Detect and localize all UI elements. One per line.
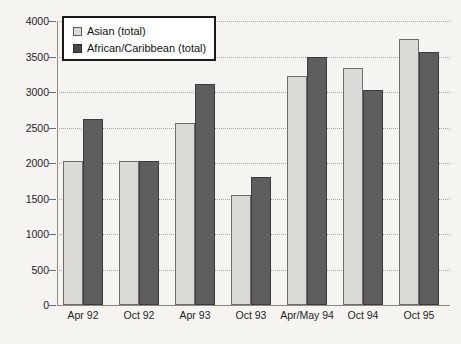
legend-swatch-icon-african-caribbean xyxy=(73,44,82,53)
bar-asian xyxy=(175,123,195,305)
chart-legend: Asian (total) African/Caribbean (total) xyxy=(62,16,216,61)
x-axis-tick-label: Oct 95 xyxy=(379,309,459,321)
bar-asian xyxy=(231,195,251,305)
y-axis-tick-label: 500 xyxy=(3,265,49,276)
y-axis-tick-mark xyxy=(49,128,56,129)
y-axis-tick-label: 1000 xyxy=(3,229,49,240)
bar-asian xyxy=(343,68,363,305)
y-axis-tick-mark xyxy=(49,163,56,164)
y-axis-tick-mark xyxy=(49,234,56,235)
y-axis-tick-mark xyxy=(49,92,56,93)
y-axis-tick-label: 2000 xyxy=(3,158,49,169)
y-axis-tick-label: 4000 xyxy=(3,16,49,27)
bar-african-caribbean xyxy=(419,52,439,305)
y-axis-tick-label: 3500 xyxy=(3,52,49,63)
y-axis-tick-mark xyxy=(49,305,56,306)
legend-label-asian: Asian (total) xyxy=(87,26,146,37)
bar-asian xyxy=(287,76,307,305)
bar-african-caribbean xyxy=(363,90,383,305)
legend-swatch-icon-asian xyxy=(73,27,82,36)
legend-label-african-caribbean: African/Caribbean (total) xyxy=(87,43,206,54)
bar-african-caribbean xyxy=(251,177,271,305)
y-axis-tick-mark xyxy=(49,199,56,200)
bar-asian xyxy=(119,161,139,305)
y-axis-tick-label: 3000 xyxy=(3,87,49,98)
y-axis-tick-mark xyxy=(49,21,56,22)
bar-chart: 05001000150020002500300035004000 Apr 92O… xyxy=(0,0,461,344)
bar-african-caribbean xyxy=(83,119,103,305)
bar-african-caribbean xyxy=(195,84,215,305)
y-axis-tick-label: 1500 xyxy=(3,194,49,205)
bar-asian xyxy=(63,161,83,305)
legend-item-african-caribbean: African/Caribbean (total) xyxy=(73,40,214,57)
bar-african-caribbean xyxy=(139,161,159,305)
y-axis-tick-mark xyxy=(49,57,56,58)
legend-item-asian: Asian (total) xyxy=(73,23,214,40)
y-axis-tick-label: 2500 xyxy=(3,123,49,134)
y-axis-tick-mark xyxy=(49,270,56,271)
bar-asian xyxy=(399,39,419,305)
gridline xyxy=(57,305,450,306)
bar-african-caribbean xyxy=(307,57,327,305)
plot-area xyxy=(57,21,450,305)
